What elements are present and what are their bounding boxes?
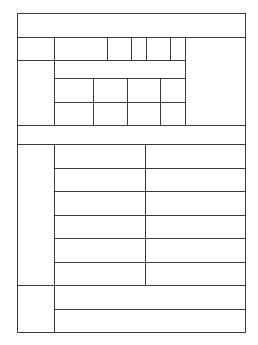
row1-div-1 bbox=[107, 37, 108, 61]
top-side-divider bbox=[185, 37, 186, 126]
top-row2-bottom bbox=[54, 78, 185, 79]
border-bottom bbox=[17, 332, 246, 333]
top-row3-bottom bbox=[54, 102, 185, 103]
divider-row-cell[interactable] bbox=[18, 126, 245, 144]
top-label-row-divider bbox=[17, 60, 54, 61]
middle-row-1 bbox=[54, 168, 245, 169]
bottom-block-mid bbox=[54, 309, 245, 310]
middle-row-2 bbox=[54, 191, 245, 192]
middle-row-4 bbox=[54, 238, 245, 239]
top-label-divider bbox=[54, 37, 55, 126]
bottom-block-top bbox=[17, 285, 246, 286]
middle-row-5 bbox=[54, 262, 245, 263]
row1-div-3 bbox=[146, 37, 147, 61]
header-cell[interactable] bbox=[18, 14, 245, 37]
row34-div-3 bbox=[160, 78, 161, 126]
middle-row-3 bbox=[54, 215, 245, 216]
top-row1-bottom bbox=[54, 60, 185, 61]
row1-div-4 bbox=[170, 37, 171, 61]
divider-row-bottom bbox=[17, 144, 246, 145]
row34-div-2 bbox=[127, 78, 128, 126]
row34-div-1 bbox=[93, 78, 94, 126]
row1-div-2 bbox=[131, 37, 132, 61]
